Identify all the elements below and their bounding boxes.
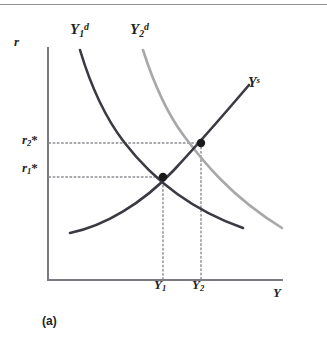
curve-label-supply-base: Y — [248, 75, 257, 90]
curve-label-demand-2-sup: d — [144, 21, 149, 32]
tick-label-Y1-base: Y — [154, 277, 162, 292]
demand-curve-2 — [143, 50, 282, 228]
axis-group — [48, 48, 282, 280]
curve-label-demand-1-sup: d — [84, 21, 89, 32]
tick-label-Y2: Y2 — [192, 278, 204, 293]
tick-label-Y2-sub: 2 — [200, 283, 204, 293]
supply-curve — [70, 85, 249, 233]
tick-label-Y1-sub: 1 — [162, 283, 166, 293]
curve-label-demand-2-base: Y — [130, 21, 139, 37]
tick-label-r1: r1* — [22, 161, 38, 176]
tick-label-r2: r2* — [22, 133, 38, 148]
curve-label-demand-2: Y2d — [130, 22, 149, 39]
curve-label-supply: Ys — [248, 76, 260, 90]
curve-label-demand-1-base: Y — [70, 21, 79, 37]
x-axis-label: Y — [273, 286, 281, 299]
panel-caption: (a) — [42, 315, 57, 327]
curve-label-demand-1: Y1d — [70, 22, 89, 39]
curve-label-supply-sup: s — [257, 75, 261, 85]
equilibrium-point-2 — [197, 139, 205, 147]
economics-figure: Y1d Y2d Ys r Y r2* r1* Y1 Y2 (a) — [0, 0, 327, 344]
tick-label-Y2-base: Y — [192, 277, 200, 292]
tick-label-r2-star: * — [31, 132, 38, 147]
tick-label-Y1: Y1 — [154, 278, 166, 293]
tick-label-r1-star: * — [31, 160, 38, 175]
y-axis-label: r — [14, 35, 19, 48]
demand-curve-1 — [80, 50, 243, 228]
equilibrium-point-1 — [159, 173, 167, 181]
